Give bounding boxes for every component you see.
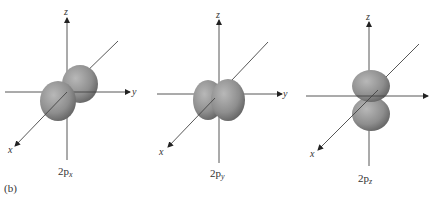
y-label: y xyxy=(282,88,288,99)
panel-2py: z y x 2py xyxy=(157,9,288,181)
x-axis-back xyxy=(232,42,268,80)
panel-2px: z y x 2px xyxy=(5,6,137,179)
orbital-lobe-bottom xyxy=(352,97,390,131)
caption-2py: 2py xyxy=(210,167,225,181)
x-label: x xyxy=(7,144,13,155)
z-label: z xyxy=(365,11,370,22)
caption-2px: 2px xyxy=(58,165,73,179)
x-label: x xyxy=(309,148,315,159)
figure-label: (b) xyxy=(4,182,17,195)
z-label: z xyxy=(63,6,68,17)
x-label: x xyxy=(158,146,164,157)
panel-2pz: z x 2pz xyxy=(306,11,428,186)
x-axis-back xyxy=(385,44,419,78)
orbital-lobe-right xyxy=(211,79,245,121)
orbital-diagram: z y x 2px z y x 2py z x 2pz (b) xyxy=(0,0,431,197)
x-axis xyxy=(168,98,215,147)
z-label: z xyxy=(215,9,220,20)
caption-2pz: 2pz xyxy=(358,172,373,186)
y-label: y xyxy=(131,86,137,97)
